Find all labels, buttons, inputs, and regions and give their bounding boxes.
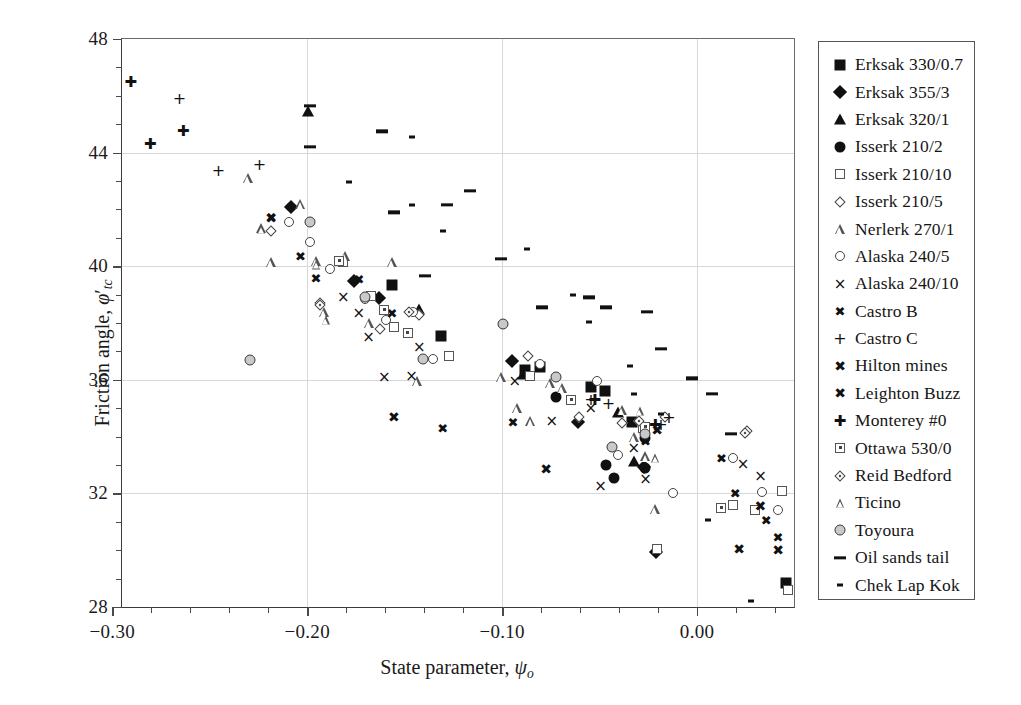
data-point <box>583 296 595 299</box>
data-point <box>435 330 446 341</box>
legend-item[interactable]: Erksak 355/3 <box>819 78 974 105</box>
marker-x-bold: ✖ <box>437 422 448 435</box>
legend-item-label: Ottawa 530/0 <box>855 438 952 459</box>
marker-open-triangle <box>557 383 567 393</box>
y-tick-minor <box>116 522 122 523</box>
marker-dash-long <box>725 432 737 435</box>
marker-open-circle-gray <box>498 319 509 330</box>
marker-open-triangle <box>617 405 627 415</box>
legend-item[interactable]: Isserk 210/5 <box>819 188 974 215</box>
x-tick-minor <box>541 607 542 613</box>
data-point <box>440 229 446 232</box>
legend-item-label: Erksak 355/3 <box>855 82 950 103</box>
legend-item[interactable]: ×Alaska 240/10 <box>819 270 974 297</box>
x-tick-minor <box>775 607 776 613</box>
data-point <box>359 292 370 303</box>
marker-dash-short <box>705 519 711 522</box>
marker-open-square <box>652 544 662 554</box>
chart-root: Friction angle, φ′tc State parameter, ψo… <box>0 0 1021 705</box>
data-point <box>550 371 561 382</box>
data-point <box>387 257 397 267</box>
legend-item[interactable]: ✚Monterey #0 <box>819 407 974 434</box>
gridline-vertical <box>307 39 308 607</box>
legend-item[interactable]: Isserk 210/2 <box>819 133 974 160</box>
data-point <box>757 487 767 497</box>
legend-item[interactable]: Isserk 210/10 <box>819 161 974 188</box>
marker-plus-bold: ✚ <box>177 124 190 139</box>
data-point <box>525 371 535 381</box>
marker-dash-short <box>409 135 415 138</box>
legend-marker-filled-diamond <box>833 84 855 100</box>
marker-plus: + <box>253 157 266 173</box>
legend-item[interactable]: Oil sands tail <box>819 544 974 571</box>
x-tick-minor <box>658 607 659 613</box>
marker-open-square-dot <box>334 256 344 266</box>
marker-x-thin: × <box>754 469 767 484</box>
data-point <box>525 416 535 426</box>
marker-open-circle <box>757 487 767 497</box>
marker-x-bold: ✖ <box>295 250 306 263</box>
x-tick-major <box>697 607 698 616</box>
marker-x-heavy: ✖ <box>388 410 400 424</box>
marker-dash-long <box>655 347 667 350</box>
marker-open-circle <box>325 264 335 274</box>
data-point <box>783 585 793 595</box>
legend-item[interactable]: Ottawa 530/0 <box>819 434 974 461</box>
marker-filled-diamond <box>505 354 519 368</box>
legend-item[interactable]: Erksak 320/1 <box>819 106 974 133</box>
x-tick-minor <box>229 607 230 613</box>
legend-item[interactable]: Ticino <box>819 489 974 516</box>
data-point <box>655 347 667 350</box>
data-point <box>579 417 587 425</box>
legend-item[interactable]: +Castro C <box>819 325 974 352</box>
marker-open-circle <box>428 354 438 364</box>
legend-item[interactable]: Chek Lap Kok <box>819 571 974 598</box>
gridlines <box>122 39 794 607</box>
data-point <box>640 451 650 461</box>
y-tick-major <box>113 380 122 381</box>
y-tick-label: 36 <box>88 369 108 391</box>
marker-dash-short <box>440 229 446 232</box>
legend-item[interactable]: ✖Leighton Buzz <box>819 380 974 407</box>
data-point <box>601 460 612 471</box>
marker-open-triangle <box>496 372 506 382</box>
legend-marker-open-circle <box>833 248 855 264</box>
marker-open-triangle-sm <box>636 407 644 416</box>
legend-item[interactable]: Reid Bedford <box>819 462 974 489</box>
legend-item[interactable]: Nerlerk 270/1 <box>819 215 974 242</box>
legend-marker-dash-long <box>833 550 855 566</box>
data-point <box>728 500 738 510</box>
marker-open-circle <box>535 359 545 369</box>
legend-item-label: Isserk 210/2 <box>855 136 943 157</box>
x-tick-label: 0.00 <box>680 621 714 643</box>
legend-item[interactable]: ✖Hilton mines <box>819 352 974 379</box>
data-point <box>409 204 415 207</box>
marker-open-circle <box>773 505 783 515</box>
data-point <box>257 225 265 234</box>
marker-open-triangle <box>266 257 276 267</box>
data-point <box>570 293 576 296</box>
data-point <box>428 354 438 364</box>
marker-plus: + <box>662 410 675 426</box>
data-point <box>409 135 415 138</box>
marker-open-triangle <box>640 451 650 461</box>
marker-dash-short <box>748 600 754 603</box>
marker-x-thin: × <box>737 456 750 471</box>
marker-x-heavy: ✖ <box>540 462 552 476</box>
x-tick-minor <box>424 607 425 613</box>
legend-item[interactable]: Toyoura <box>819 517 974 544</box>
legend-item[interactable]: Erksak 330/0.7 <box>819 51 974 78</box>
x-tick-major <box>502 607 503 616</box>
legend-item[interactable]: Alaska 240/5 <box>819 243 974 270</box>
marker-dash-short <box>658 412 664 415</box>
legend-item[interactable]: ✖Castro B <box>819 298 974 325</box>
legend-item-label: Castro B <box>855 301 918 322</box>
marker-open-square-dot <box>716 503 726 513</box>
legend-marker-open-triangle-sm <box>833 495 855 511</box>
marker-open-diamond <box>265 225 276 236</box>
data-point <box>320 305 328 313</box>
data-point <box>705 519 711 522</box>
legend-marker-filled-circle <box>833 139 855 155</box>
legend-item-label: Toyoura <box>855 520 914 541</box>
marker-x-bold: ✖ <box>353 272 364 285</box>
